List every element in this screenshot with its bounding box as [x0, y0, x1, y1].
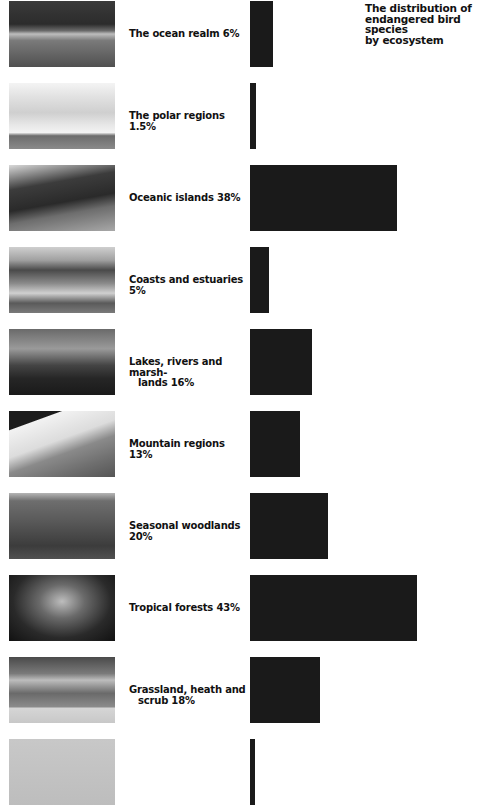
row-label: Mountain regions 13% — [129, 439, 247, 460]
chart-row — [0, 739, 477, 809]
chart-row: Coasts and estuaries 5% — [0, 247, 477, 329]
row-label: The polar regions 1.5% — [129, 111, 247, 132]
chart-row: Seasonal woodlands 20% — [0, 493, 477, 575]
value-bar — [250, 83, 256, 149]
row-label: Tropical forests 43% — [129, 603, 247, 614]
row-label-line-1: Seasonal woodlands 20% — [129, 520, 240, 542]
row-label: Oceanic islands 38% — [129, 193, 247, 204]
polar-photo — [9, 83, 115, 149]
mountain-photo — [9, 411, 115, 477]
coasts-photo — [9, 247, 115, 313]
value-bar — [250, 329, 312, 395]
value-bar — [250, 247, 269, 313]
row-label-line-1: The polar regions 1.5% — [129, 110, 225, 132]
value-bar — [250, 575, 417, 641]
row-label-line-1: Mountain regions 13% — [129, 438, 225, 460]
value-bar — [250, 657, 320, 723]
row-label-line-2: lands 16% — [129, 378, 247, 389]
row-label-line-1: Tropical forests 43% — [129, 602, 240, 613]
value-bar — [250, 411, 300, 477]
row-label-line-1: Lakes, rivers and marsh- — [129, 356, 222, 378]
grassland-photo — [9, 657, 115, 723]
row-label-line-2: scrub 18% — [129, 696, 247, 707]
row-label: Grassland, heath andscrub 18% — [129, 685, 247, 706]
partial-photo — [9, 739, 115, 805]
chart-row: Tropical forests 43% — [0, 575, 477, 657]
chart-row: Grassland, heath andscrub 18% — [0, 657, 477, 739]
chart-row: Oceanic islands 38% — [0, 165, 477, 247]
row-label-line-1: Grassland, heath and — [129, 684, 246, 695]
chart-row: Lakes, rivers and marsh-lands 16% — [0, 329, 477, 411]
tropical-photo — [9, 575, 115, 641]
chart-row: Mountain regions 13% — [0, 411, 477, 493]
ocean-photo — [9, 1, 115, 67]
row-label-line-1: Oceanic islands 38% — [129, 192, 240, 203]
row-label-line-1: Coasts and estuaries 5% — [129, 274, 243, 296]
chart-row: The ocean realm 6% — [0, 1, 477, 83]
row-label: Lakes, rivers and marsh-lands 16% — [129, 357, 247, 389]
lakes-photo — [9, 329, 115, 395]
woodlands-photo — [9, 493, 115, 559]
value-bar — [250, 493, 328, 559]
row-label: Seasonal woodlands 20% — [129, 521, 247, 542]
value-bar — [250, 739, 255, 805]
value-bar — [250, 1, 273, 67]
value-bar — [250, 165, 397, 231]
islands-photo — [9, 165, 115, 231]
row-label: Coasts and estuaries 5% — [129, 275, 247, 296]
chart-row: The polar regions 1.5% — [0, 83, 477, 165]
row-label-line-1: The ocean realm 6% — [129, 28, 239, 39]
row-label: The ocean realm 6% — [129, 29, 247, 40]
